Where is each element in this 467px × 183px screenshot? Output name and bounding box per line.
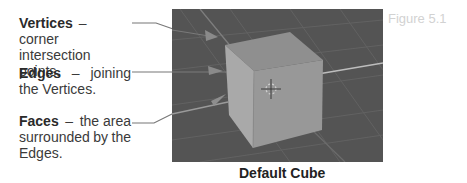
leader-line-vertices bbox=[132, 23, 176, 30]
figure-number: Figure 5.1 bbox=[388, 11, 447, 26]
figure-viewport bbox=[172, 9, 383, 162]
cube-render bbox=[172, 9, 383, 162]
leader-line-faces bbox=[132, 112, 176, 123]
figure-caption: Default Cube bbox=[239, 165, 325, 181]
